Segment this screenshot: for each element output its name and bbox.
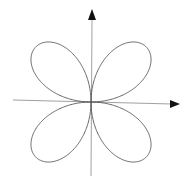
x-axis-arrow-icon <box>170 100 180 108</box>
rose-curve-diagram <box>0 0 193 178</box>
y-axis-arrow-icon <box>88 9 96 20</box>
